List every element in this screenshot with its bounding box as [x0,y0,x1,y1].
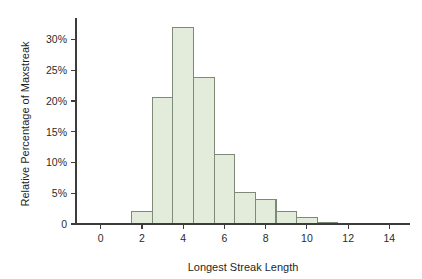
histogram-bar [235,193,256,224]
histogram-bar [255,199,276,224]
bars-group [132,27,338,224]
histogram-bar [194,78,215,224]
x-axis-ticks: 02468101214 [98,224,396,244]
histogram-bar [152,98,173,224]
x-tick-label: 6 [222,232,228,244]
histogram-bar [132,212,153,224]
y-tick-label: 0 [61,218,67,230]
histogram-bar [276,212,297,224]
x-tick-label: 0 [98,232,104,244]
x-tick-label: 8 [263,232,269,244]
x-axis-title: Longest Streak Length [188,261,299,273]
y-tick-label: 25% [46,64,67,76]
x-tick-label: 10 [301,232,313,244]
x-tick-label: 2 [139,232,145,244]
histogram-chart: 05%10%15%20%25%30% 02468101214 Longest S… [0,0,422,279]
y-tick-label: 15% [46,126,67,138]
histogram-figure: 05%10%15%20%25%30% 02468101214 Longest S… [0,0,422,279]
histogram-bar [297,218,318,224]
y-tick-label: 10% [46,156,67,168]
y-axis-title: Relative Percentage of Maxstreak [19,41,31,207]
y-tick-label: 30% [46,33,67,45]
y-tick-label: 20% [46,95,67,107]
x-tick-label: 12 [342,232,354,244]
x-tick-label: 14 [384,232,396,244]
histogram-bar [214,155,235,224]
y-tick-label: 5% [52,187,67,199]
histogram-bar [173,27,194,224]
x-tick-label: 4 [180,232,186,244]
y-axis-ticks: 05%10%15%20%25%30% [46,33,76,229]
